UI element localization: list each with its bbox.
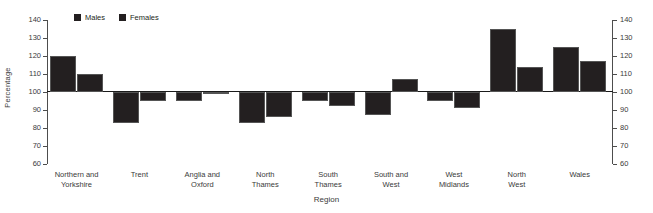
- axis-cap-right-top: [613, 20, 617, 21]
- y-tick-right-120: [613, 56, 617, 57]
- bar-males-3: [239, 92, 265, 123]
- bar-females-4: [329, 92, 355, 106]
- bar-males-2: [176, 92, 202, 101]
- legend-swatch-icon-males: [74, 14, 81, 21]
- y-tick-label-right-130: 130: [620, 34, 633, 42]
- y-tick-right-90: [613, 110, 617, 111]
- y-tick-label-left-70: 70: [17, 142, 41, 150]
- bar-males-6: [427, 92, 453, 101]
- y-tick-label-right-80: 80: [620, 124, 628, 132]
- y-tick-right-70: [613, 146, 617, 147]
- y-tick-label-left-120: 120: [17, 52, 41, 60]
- legend-swatch-icon-females: [119, 14, 126, 21]
- bar-chart: Percentage 14014013013012012011011010010…: [0, 0, 653, 213]
- y-tick-label-right-100: 100: [620, 88, 633, 96]
- bar-females-0: [77, 74, 103, 92]
- y-axis-title-text: Percentage: [3, 67, 12, 107]
- y-tick-label-right-60: 60: [620, 160, 628, 168]
- y-tick-label-right-70: 70: [620, 142, 628, 150]
- y-tick-label-left-60: 60: [17, 160, 41, 168]
- y-tick-right-100: [613, 92, 617, 93]
- y-tick-label-left-90: 90: [17, 106, 41, 114]
- bar-males-1: [113, 92, 139, 123]
- bar-males-8: [553, 47, 579, 92]
- bar-males-5: [365, 92, 391, 115]
- bar-females-2: [203, 92, 229, 94]
- bar-females-6: [454, 92, 480, 108]
- bar-females-5: [392, 79, 418, 92]
- category-label-8: Wales: [540, 170, 620, 180]
- y-tick-label-left-100: 100: [17, 88, 41, 96]
- bar-males-7: [490, 29, 516, 92]
- bar-males-0: [50, 56, 76, 92]
- axis-cap-right-bottom: [613, 164, 617, 165]
- y-tick-right-110: [613, 74, 617, 75]
- y-tick-label-left-130: 130: [17, 34, 41, 42]
- legend-label-males: Males: [85, 13, 105, 22]
- y-tick-label-left-80: 80: [17, 124, 41, 132]
- y-axis-title: Percentage: [0, 0, 14, 175]
- y-tick-label-left-110: 110: [17, 70, 41, 78]
- y-tick-label-left-140: 140: [17, 16, 41, 24]
- legend-item-males[interactable]: Males: [74, 13, 105, 22]
- y-tick-label-right-90: 90: [620, 106, 628, 114]
- bar-females-7: [517, 67, 543, 92]
- x-axis-title: Region: [0, 195, 653, 204]
- bar-females-3: [266, 92, 292, 117]
- bar-females-8: [580, 61, 606, 92]
- legend: MalesFemales: [74, 13, 159, 22]
- y-tick-label-right-120: 120: [620, 52, 633, 60]
- y-tick-label-right-140: 140: [620, 16, 633, 24]
- bar-females-1: [140, 92, 166, 101]
- plot-area: [47, 20, 613, 164]
- y-tick-right-130: [613, 38, 617, 39]
- y-tick-right-80: [613, 128, 617, 129]
- bar-males-4: [302, 92, 328, 101]
- legend-item-females[interactable]: Females: [119, 13, 159, 22]
- legend-label-females: Females: [130, 13, 159, 22]
- axis-cap-left-bottom: [43, 164, 47, 165]
- y-tick-label-right-110: 110: [620, 70, 632, 78]
